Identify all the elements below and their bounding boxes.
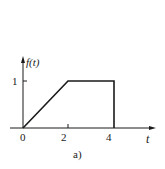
x-tick-label-4: 4 bbox=[106, 131, 112, 143]
series-f-of-t bbox=[23, 81, 114, 128]
chart: f(t) 1 0 2 4 t a) bbox=[0, 0, 165, 169]
figure-caption: a) bbox=[73, 148, 82, 161]
x-tick-label-0: 0 bbox=[20, 131, 26, 143]
x-tick-label-2: 2 bbox=[61, 131, 67, 143]
y-axis-label: f(t) bbox=[26, 56, 40, 69]
y-tick-label-1: 1 bbox=[12, 75, 18, 87]
y-axis-arrow-icon bbox=[21, 56, 25, 63]
x-axis-label: t bbox=[146, 132, 150, 146]
x-axis-arrow-icon bbox=[149, 126, 156, 130]
